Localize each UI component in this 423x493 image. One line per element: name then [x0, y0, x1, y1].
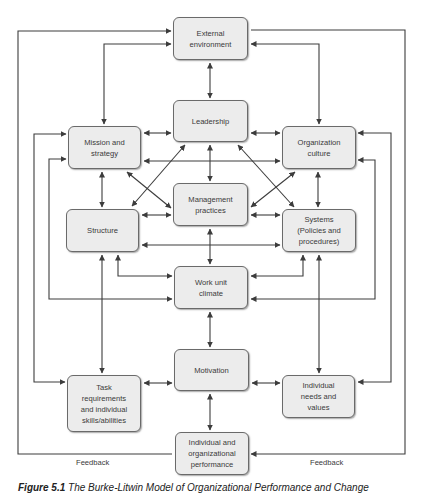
box-performance: Individual and organizational performanc… [175, 432, 249, 475]
box-label: Motivation [194, 365, 229, 376]
figure-caption: Figure 5.1 The Burke-Litwin Model of Org… [18, 482, 369, 493]
box-label: Mission and strategy [84, 137, 125, 159]
feedback-label-left: Feedback [76, 458, 109, 467]
box-label: Individual needs and values [301, 380, 336, 413]
box-work-unit-climate: Work unit climate [174, 266, 248, 309]
caption-prefix: Figure 5.1 [18, 482, 65, 493]
box-organization-culture: Organization culture [282, 126, 356, 169]
box-management-practices: Management practices [173, 183, 248, 226]
box-label: External environment [190, 28, 232, 50]
box-label: Work unit climate [195, 277, 227, 299]
box-motivation: Motivation [174, 349, 249, 391]
feedback-label-right: Feedback [310, 458, 343, 467]
box-task-requirements: Task requirements and individual skills/… [67, 375, 141, 432]
box-mission-strategy: Mission and strategy [68, 126, 141, 169]
box-individual-needs: Individual needs and values [282, 375, 355, 418]
box-label: Task requirements and individual skills/… [81, 382, 127, 426]
box-label: Systems (Policies and procedures) [297, 214, 340, 247]
box-systems: Systems (Policies and procedures) [282, 209, 356, 252]
box-label: Leadership [192, 116, 230, 127]
box-label: Organization culture [297, 137, 340, 159]
box-external-environment: External environment [173, 17, 248, 60]
box-leadership: Leadership [173, 100, 248, 142]
caption-text: The Burke-Litwin Model of Organizational… [68, 482, 369, 493]
box-label: Individual and organizational performanc… [188, 437, 235, 470]
box-structure: Structure [66, 209, 139, 252]
box-label: Structure [87, 225, 118, 236]
box-label: Management practices [188, 194, 232, 216]
